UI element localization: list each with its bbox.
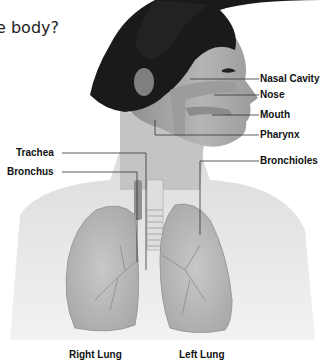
label-nose: Nose (260, 89, 284, 100)
respiratory-illustration (0, 0, 322, 363)
label-right-lung: Right Lung (69, 349, 122, 360)
label-left-lung: Left Lung (179, 349, 225, 360)
label-bronchioles: Bronchioles (260, 155, 318, 166)
label-bronchus: Bronchus (7, 166, 54, 177)
label-pharynx: Pharynx (260, 129, 299, 140)
label-trachea: Trachea (16, 147, 54, 158)
label-mouth: Mouth (260, 109, 290, 120)
label-nasal-cavity: Nasal Cavity (260, 73, 319, 84)
